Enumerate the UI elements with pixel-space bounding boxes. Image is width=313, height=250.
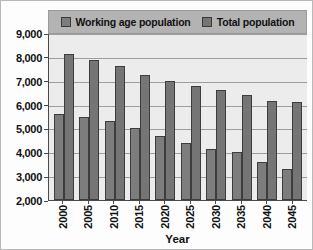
y-axis-tick-label: 8,000	[16, 52, 44, 64]
legend-item-working-age-population: Working age population	[61, 16, 191, 28]
y-axis-tick: 9,000	[16, 28, 48, 40]
y-axis-tick: 5,000	[16, 123, 48, 135]
y-axis-tick: 4,000	[16, 147, 48, 159]
legend-swatch-total-population	[202, 17, 212, 27]
bar-2030-total	[216, 90, 226, 200]
x-axis-tick-label: 2000	[57, 205, 69, 229]
y-axis-tick-label: 3,000	[16, 171, 44, 183]
bar-2025-total	[191, 86, 201, 201]
x-axis-tick-label: 2015	[133, 205, 145, 229]
x-axis: 2000200520102015202020252030203520402045	[48, 201, 307, 235]
y-axis-tick: 6,000	[16, 100, 48, 112]
x-axis-tick-mark	[215, 201, 216, 204]
bar-group-2000	[51, 34, 76, 200]
bar-2020-total	[165, 81, 175, 200]
bar-2020-working-age	[155, 136, 165, 200]
y-axis-tick: 8,000	[16, 52, 48, 64]
bar-2005-working-age	[79, 117, 89, 201]
x-axis-tick-mark	[139, 201, 140, 204]
y-axis-tick: 3,000	[16, 171, 48, 183]
y-axis-tick-label: 6,000	[16, 100, 44, 112]
bar-2040-total	[267, 101, 277, 200]
x-axis-tick-mark	[266, 201, 267, 204]
bar-2000-total	[64, 54, 74, 200]
bar-group-2020	[153, 34, 178, 200]
bar-group-2030	[203, 34, 228, 200]
bars-layer	[49, 34, 307, 200]
y-axis-tick: 7,000	[16, 76, 48, 88]
x-axis-tick-2020: 2020	[152, 201, 178, 235]
x-axis-tick-mark	[88, 201, 89, 204]
x-axis-tick-label: 2030	[210, 205, 222, 229]
bar-2015-total	[140, 75, 150, 200]
y-axis-tick: 2,000	[16, 195, 48, 207]
x-axis-tick-label: 2005	[82, 205, 94, 229]
bar-2045-working-age	[282, 169, 292, 200]
x-axis-tick-label: 2035	[235, 205, 247, 229]
y-axis-tick-label: 7,000	[16, 76, 44, 88]
x-axis-tick-mark	[241, 201, 242, 204]
bar-chart: Working age population Total population …	[0, 0, 313, 250]
x-axis-tick-mark	[190, 201, 191, 204]
bar-group-2040	[254, 34, 279, 200]
x-axis-tick-2005: 2005	[76, 201, 102, 235]
x-axis-tick-2040: 2040	[254, 201, 280, 235]
x-axis-tick-label: 2040	[261, 205, 273, 229]
x-axis-tick-2030: 2030	[203, 201, 229, 235]
chart-legend: Working age population Total population	[48, 10, 307, 34]
legend-swatch-working-age-population	[61, 17, 71, 27]
x-axis-tick-2015: 2015	[127, 201, 153, 235]
bar-2025-working-age	[181, 143, 191, 200]
y-axis-tick-label: 9,000	[16, 28, 44, 40]
x-axis-tick-2010: 2010	[101, 201, 127, 235]
x-axis-tick-label: 2025	[184, 205, 196, 229]
x-axis-tick-mark	[62, 201, 63, 204]
x-axis-tick-mark	[113, 201, 114, 204]
bar-2030-working-age	[206, 149, 216, 200]
x-axis-tick-label: 2010	[108, 205, 120, 229]
x-axis-title: Year	[48, 233, 307, 245]
bar-2005-total	[89, 60, 99, 200]
bar-2035-total	[242, 95, 252, 200]
legend-item-total-population: Total population	[202, 16, 295, 28]
legend-label-total-population: Total population	[217, 16, 295, 28]
y-axis-tick-label: 5,000	[16, 123, 44, 135]
x-axis-tick-mark	[164, 201, 165, 204]
bar-group-2005	[76, 34, 101, 200]
bar-group-2025	[178, 34, 203, 200]
legend-label-working-age-population: Working age population	[76, 16, 191, 28]
bar-2015-working-age	[130, 128, 140, 200]
bar-2000-working-age	[54, 114, 64, 200]
x-axis-tick-mark	[292, 201, 293, 204]
y-axis: 2,0003,0004,0005,0006,0007,0008,0009,000	[1, 34, 48, 201]
x-axis-tick-label: 2045	[286, 205, 298, 229]
bar-group-2015	[127, 34, 152, 200]
bar-2010-working-age	[105, 121, 115, 200]
bar-group-2010	[102, 34, 127, 200]
x-axis-tick-2000: 2000	[50, 201, 76, 235]
bar-2040-working-age	[257, 162, 267, 200]
x-axis-tick-label: 2020	[159, 205, 171, 229]
x-axis-tick-2025: 2025	[178, 201, 204, 235]
y-axis-tick-label: 4,000	[16, 147, 44, 159]
bar-2045-total	[292, 102, 302, 200]
bar-group-2045	[280, 34, 305, 200]
bar-2010-total	[115, 66, 125, 200]
bar-group-2035	[229, 34, 254, 200]
x-axis-tick-2035: 2035	[229, 201, 255, 235]
plot-area	[48, 34, 307, 201]
y-axis-tick-label: 2,000	[16, 195, 44, 207]
bar-2035-working-age	[232, 152, 242, 200]
x-axis-tick-2045: 2045	[280, 201, 306, 235]
